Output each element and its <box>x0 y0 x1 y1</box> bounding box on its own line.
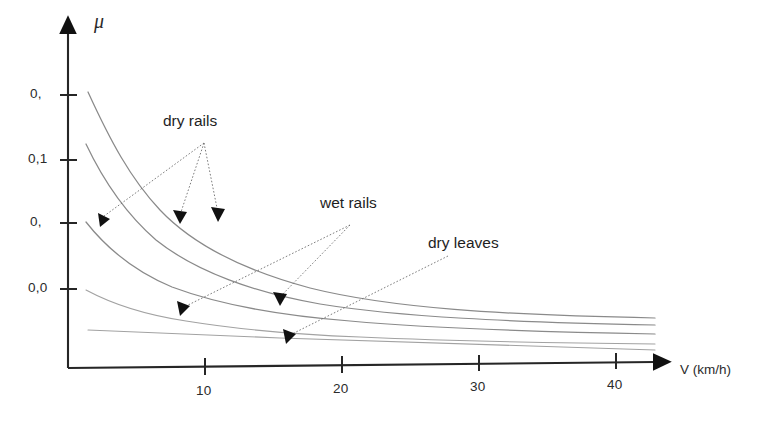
annotation-leaders-wet-rails <box>177 225 350 316</box>
annotation-leaders-dry-rails <box>98 143 225 227</box>
x-tick-label-0: 10 <box>196 383 211 398</box>
annotation-dry-rails: dry rails <box>163 112 217 130</box>
x-axis-title: V (km/h) <box>680 362 731 377</box>
x-axis-line <box>68 362 655 368</box>
y-tick-label-3: 0,0 <box>28 280 47 295</box>
annotation-wet-rails: wet rails <box>320 194 377 212</box>
chart-canvas <box>0 0 772 423</box>
x-tick-label-3: 40 <box>607 377 622 392</box>
adhesion-coefficient-chart: μ 0, 0,1 0, 0,0 10 20 30 40 V (km/h) dry… <box>0 0 772 423</box>
x-tick-label-2: 30 <box>470 379 485 394</box>
curve-dry-rails-lower <box>86 144 655 325</box>
y-tick-label-1: 0,1 <box>28 151 47 166</box>
curve-wet-rails-lower <box>86 290 655 344</box>
y-axis-symbol-label: μ <box>94 10 104 33</box>
y-tick-label-0: 0, <box>30 86 42 101</box>
annotation-dry-leaves: dry leaves <box>428 234 499 252</box>
annotation-leaders-dry-leaves <box>283 256 448 344</box>
series-curves <box>86 92 655 350</box>
x-tick-label-1: 20 <box>333 381 348 396</box>
curve-wet-rails-upper <box>86 222 655 334</box>
y-tick-label-2: 0, <box>30 214 42 229</box>
curve-dry-leaves <box>88 330 655 350</box>
